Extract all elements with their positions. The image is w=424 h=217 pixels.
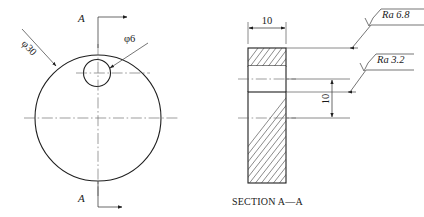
ra-upper-label: Ra 6.8	[381, 9, 410, 20]
technical-drawing-svg: φ30 φ6 A A	[0, 0, 424, 217]
drawing-background	[0, 0, 424, 217]
technical-drawing-canvas: φ30 φ6 A A	[0, 0, 424, 217]
height-dimension-label: 10	[320, 94, 331, 105]
section-label-bottom: A	[77, 192, 85, 204]
ra-lower-label: Ra 3.2	[376, 54, 405, 65]
width-dimension-label: 10	[262, 15, 273, 26]
hole-diameter-label: φ6	[124, 33, 135, 44]
section-caption: SECTION A—A	[232, 196, 303, 207]
section-label-top: A	[77, 12, 85, 24]
